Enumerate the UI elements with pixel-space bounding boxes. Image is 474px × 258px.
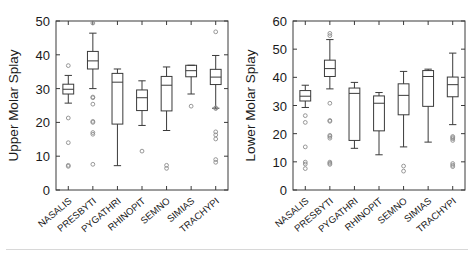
- boxplot-pygathri: [112, 69, 123, 166]
- plot-frame: [56, 21, 228, 190]
- boxplot-semno: [398, 71, 409, 173]
- boxplot-pygathri: [349, 82, 360, 148]
- boxplot-semno: [161, 67, 172, 170]
- outlier-point: [402, 169, 406, 173]
- outlier-point: [189, 104, 193, 108]
- outlier-point: [214, 137, 218, 141]
- boxplot-presbyti: [324, 31, 335, 166]
- box: [161, 76, 172, 110]
- y-tick-label: 50: [273, 42, 287, 57]
- y-tick-label: 0: [43, 183, 50, 198]
- boxplot-nasalis: [300, 85, 311, 170]
- y-tick-label: 50: [36, 14, 50, 29]
- y-tick-label: 30: [273, 99, 287, 114]
- boxplot-trachypi: [210, 30, 221, 164]
- box: [137, 90, 148, 111]
- y-tick-label: 0: [280, 183, 287, 198]
- boxplot-simias: [423, 69, 434, 142]
- box: [374, 96, 385, 131]
- boxplot-rhinopit: [137, 81, 148, 153]
- figure-bottom-rule: [6, 249, 468, 250]
- boxplot-trachypi: [447, 53, 458, 168]
- box: [349, 88, 360, 140]
- outlier-point: [402, 164, 406, 168]
- box: [423, 71, 434, 107]
- boxplot-simias: [186, 65, 197, 108]
- outlier-point: [66, 64, 70, 68]
- y-tick-label: 10: [36, 149, 50, 164]
- outlier-point: [91, 102, 95, 106]
- outlier-point: [140, 149, 144, 153]
- upper-molar-splay-chart: 01020304050Upper Molar SplayNASALISPRESB…: [0, 0, 237, 258]
- y-axis-title: Upper Molar Splay: [6, 49, 21, 161]
- box: [87, 51, 98, 69]
- y-tick-label: 40: [273, 70, 287, 85]
- y-tick-label: 20: [36, 115, 50, 130]
- boxplot-rhinopit: [374, 93, 385, 155]
- y-tick-label: 40: [36, 48, 50, 63]
- outlier-point: [303, 145, 307, 149]
- plot-frame: [293, 21, 465, 190]
- outlier-point: [214, 30, 218, 34]
- outlier-point: [214, 160, 218, 164]
- panel-lower-molar-splay: 0102030405060Lower Molar SplayNASALISPRE…: [237, 0, 474, 258]
- outlier-point: [303, 121, 307, 125]
- box: [112, 73, 123, 124]
- boxplot-presbyti: [87, 21, 98, 166]
- y-tick-label: 60: [273, 14, 287, 29]
- outlier-point: [328, 101, 332, 105]
- boxplot-nasalis: [63, 64, 74, 169]
- outlier-point: [303, 167, 307, 171]
- outlier-point: [303, 114, 307, 118]
- y-tick-label: 20: [273, 127, 287, 142]
- y-tick-label: 30: [36, 82, 50, 97]
- box: [447, 77, 458, 97]
- lower-molar-splay-chart: 0102030405060Lower Molar SplayNASALISPRE…: [237, 0, 474, 258]
- y-tick-label: 10: [273, 155, 287, 170]
- box: [398, 84, 409, 115]
- outlier-point: [66, 141, 70, 145]
- outlier-point: [91, 162, 95, 166]
- boxplot-figure: 01020304050Upper Molar SplayNASALISPRESB…: [0, 0, 474, 258]
- panel-upper-molar-splay: 01020304050Upper Molar SplayNASALISPRESB…: [0, 0, 237, 258]
- y-axis-title: Lower Molar Splay: [243, 49, 258, 161]
- outlier-point: [66, 116, 70, 120]
